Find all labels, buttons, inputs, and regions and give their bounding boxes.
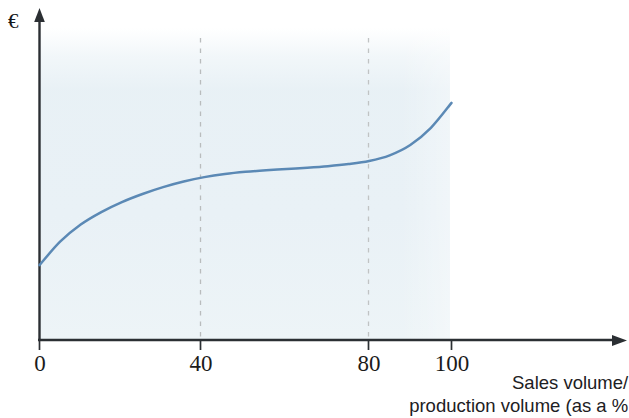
y-axis-arrowhead xyxy=(34,8,45,22)
x-tick-label-100: 100 xyxy=(435,352,470,375)
chart-canvas xyxy=(0,0,629,418)
plot-background-band-highlight xyxy=(40,28,450,340)
x-axis-arrowhead xyxy=(612,335,627,346)
x-tick-label-40: 40 xyxy=(190,352,213,375)
x-axis-caption-line-2: production volume (as a % xyxy=(406,394,628,417)
chart-figure: € 0 40 80 100 Sales volume/ production v… xyxy=(0,0,629,418)
x-tick-label-0: 0 xyxy=(34,352,46,375)
y-axis-currency-label: € xyxy=(8,11,19,32)
x-axis-caption: Sales volume/ production volume (as a % xyxy=(512,371,628,417)
x-axis-caption-line-1: Sales volume/ xyxy=(512,371,628,394)
x-tick-label-80: 80 xyxy=(358,352,381,375)
